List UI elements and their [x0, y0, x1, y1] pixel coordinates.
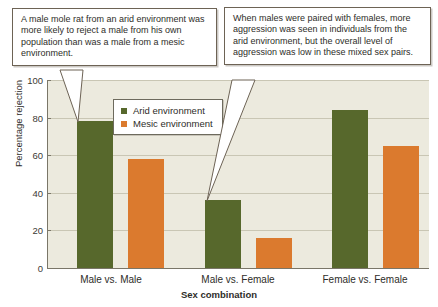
callout-left: A male mole rat from an arid environment… — [12, 8, 217, 66]
callout-right-tail-icon — [207, 80, 255, 201]
callout-left-tail-icon — [60, 70, 83, 122]
callout-right-text: When males were paired with females, mor… — [233, 13, 423, 59]
callout-left-text: A male mole rat from an arid environment… — [21, 14, 209, 60]
bar-chart-figure: 100 80 60 40 20 0 Percentage rejection M… — [0, 0, 438, 307]
callout-right: When males were paired with females, mor… — [224, 7, 431, 65]
